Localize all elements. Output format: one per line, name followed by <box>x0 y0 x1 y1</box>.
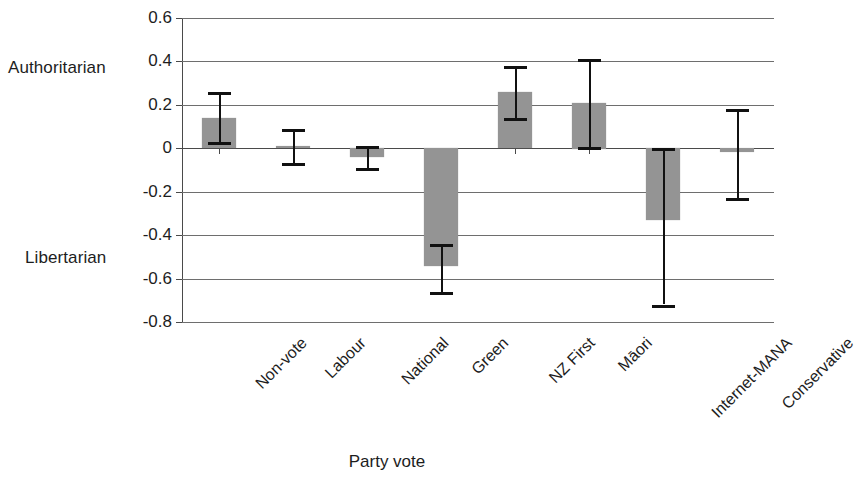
gridline <box>182 322 774 323</box>
error-bar-stem <box>589 59 591 147</box>
y-axis-tick-label: 0.6 <box>148 8 172 28</box>
y-axis-tick-label: 0.4 <box>148 51 172 71</box>
error-bar-cap-lower <box>504 118 527 121</box>
error-bar-cap-upper <box>430 244 453 247</box>
gridline <box>182 18 774 19</box>
error-bar-cap-upper <box>356 146 379 149</box>
error-bar-cap-lower <box>578 147 601 150</box>
x-axis-category-label: National <box>398 334 452 388</box>
error-bar-cap-lower <box>430 292 453 295</box>
y-axis-line <box>182 18 183 322</box>
error-bar-stem <box>219 92 221 142</box>
x-axis-tick <box>219 148 220 154</box>
y-axis-tick <box>176 279 182 280</box>
gridline <box>182 148 774 149</box>
error-bar-stem <box>515 66 517 118</box>
x-axis-category-label: Labour <box>322 334 370 382</box>
error-bar-stem <box>441 244 443 292</box>
x-axis-category-label: Māori <box>615 334 656 375</box>
error-bar-cap-upper <box>652 148 675 151</box>
x-axis-category-label: Non-vote <box>252 334 311 393</box>
error-bar-cap-lower <box>652 305 675 308</box>
y-axis-tick-labels: 0.60.40.20-0.2-0.4-0.6-0.8 <box>120 18 172 322</box>
x-axis-category-label: NZ First <box>546 334 599 387</box>
error-bar-cap-lower <box>282 163 305 166</box>
y-axis-tick <box>176 192 182 193</box>
y-axis-tick-label: -0.6 <box>143 269 172 289</box>
error-bar-stem <box>367 146 369 168</box>
y-axis-tick <box>176 235 182 236</box>
x-axis-category-label: Internet-MANA <box>708 334 796 422</box>
gridline <box>182 61 774 62</box>
y-axis-tick-label: 0.2 <box>148 95 172 115</box>
x-axis-category-labels: Non-voteLabourNationalGreenNZ FirstMāori… <box>0 330 774 450</box>
error-bar-cap-upper <box>504 66 527 69</box>
y-axis-tick <box>176 18 182 19</box>
error-bar-cap-upper <box>578 59 601 62</box>
error-bar-cap-lower <box>208 142 231 145</box>
y-axis-tick-label: -0.2 <box>143 182 172 202</box>
gridline <box>182 279 774 280</box>
axis-anchor-label-authoritarian: Authoritarian <box>8 58 106 78</box>
error-bar-cap-upper <box>282 129 305 132</box>
error-bar-stem <box>737 109 739 198</box>
error-bar-stem <box>663 148 665 304</box>
x-axis-title: Party vote <box>0 452 774 472</box>
y-axis-tick-label: -0.8 <box>143 312 172 332</box>
error-bar-cap-lower <box>356 168 379 171</box>
x-axis-tick <box>515 148 516 154</box>
gridline <box>182 105 774 106</box>
y-axis-tick <box>176 148 182 149</box>
y-axis-tick <box>176 61 182 62</box>
y-axis-tick-label: -0.4 <box>143 225 172 245</box>
y-axis-tick <box>176 322 182 323</box>
plot-area <box>182 18 774 322</box>
error-bar-cap-lower <box>726 198 749 201</box>
y-axis-tick-label: 0 <box>163 138 172 158</box>
gridline <box>182 235 774 236</box>
axis-anchor-label-libertarian: Libertarian <box>25 248 106 268</box>
error-bar-stem <box>293 129 295 164</box>
error-bar-cap-upper <box>208 92 231 95</box>
y-axis-tick <box>176 105 182 106</box>
gridline <box>182 192 774 193</box>
error-bar-cap-upper <box>726 109 749 112</box>
x-axis-category-label: Green <box>468 334 512 378</box>
